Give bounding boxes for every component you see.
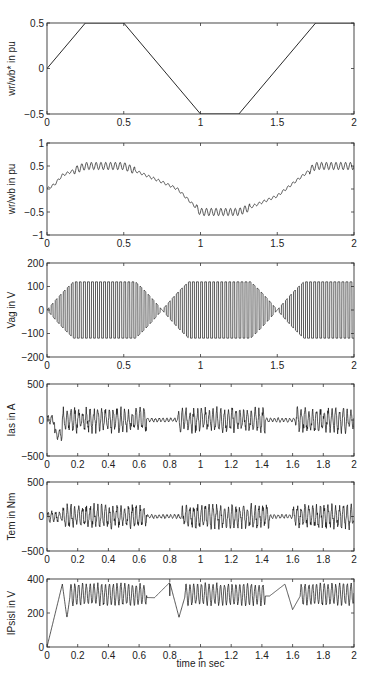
y-tick-label: 0	[38, 63, 44, 74]
y-axis-label: Vag in V	[6, 291, 17, 328]
x-tick-label: 0	[44, 117, 50, 128]
x-tick-label: 0.6	[132, 554, 146, 565]
y-axis-label: Ias in A	[6, 403, 17, 436]
x-tick-label: 1.5	[270, 360, 284, 371]
plot-frame	[47, 23, 354, 114]
x-tick-label: 1.4	[255, 459, 269, 470]
y-tick-label: 200	[27, 258, 44, 269]
y-tick-label: 0	[38, 305, 44, 316]
x-tick-label: 1	[198, 554, 204, 565]
x-tick-label: 0.4	[101, 459, 115, 470]
y-tick-label: 0	[38, 511, 44, 522]
subplot-5: 00.20.40.60.811.21.41.61.82−5000500Tem i…	[6, 477, 357, 566]
subplot-1: 00.511.52−0.500.5wr/wb* in pu	[6, 18, 357, 129]
x-tick-label: 0.5	[117, 360, 131, 371]
x-tick-label: 2	[351, 459, 357, 470]
x-tick-label: 0.2	[71, 554, 85, 565]
data-line	[47, 162, 354, 215]
x-tick-label: 0	[44, 554, 50, 565]
x-tick-label: 0	[44, 459, 50, 470]
x-tick-label: 1.2	[224, 554, 238, 565]
y-axis-label: wr/wb* in pu	[6, 41, 17, 96]
y-tick-label: 100	[27, 281, 44, 292]
y-tick-label: −100	[21, 328, 44, 339]
x-tick-label: 0.5	[117, 117, 131, 128]
y-tick-label: −0.5	[24, 109, 44, 120]
y-axis-label: Tem in Nm	[6, 493, 17, 541]
subplot-4: 00.20.40.60.811.21.41.61.82−5000500Ias i…	[6, 379, 357, 471]
x-tick-label: 0.4	[101, 554, 115, 565]
subplot-6: 00.20.40.60.811.21.41.61.820200400IPsisI…	[6, 574, 357, 662]
y-tick-label: −0.5	[24, 207, 44, 218]
y-tick-label: 200	[27, 608, 44, 619]
x-tick-label: 1	[198, 238, 204, 249]
x-tick-label: 1.6	[286, 459, 300, 470]
x-tick-label: 1.4	[255, 554, 269, 565]
y-tick-label: 0	[38, 642, 44, 653]
x-tick-label: 0.2	[71, 459, 85, 470]
x-tick-label: 1	[198, 360, 204, 371]
x-tick-label: 1	[198, 459, 204, 470]
x-tick-label: 1.5	[270, 238, 284, 249]
x-tick-label: 0.8	[163, 554, 177, 565]
y-tick-label: 1	[38, 138, 44, 149]
y-tick-label: −200	[21, 352, 44, 363]
x-axis-label: time in sec	[0, 658, 371, 669]
x-tick-label: 1.5	[270, 117, 284, 128]
y-tick-label: −500	[21, 546, 44, 557]
x-tick-label: 1.8	[316, 554, 330, 565]
y-tick-label: −500	[21, 451, 44, 462]
y-tick-label: 0.5	[30, 161, 44, 172]
y-axis-label: wr/wb in pu	[6, 164, 17, 216]
subplot-3: 00.511.52−200−1000100200Vag in V	[6, 258, 357, 372]
y-tick-label: 0	[38, 415, 44, 426]
x-tick-label: 0.5	[117, 238, 131, 249]
y-tick-label: 400	[27, 574, 44, 585]
x-tick-label: 1	[198, 117, 204, 128]
data-line	[47, 282, 354, 338]
data-line	[47, 583, 354, 647]
x-tick-label: 0.6	[132, 459, 146, 470]
y-tick-label: 500	[27, 379, 44, 390]
x-tick-label: 2	[351, 360, 357, 371]
y-tick-label: 500	[27, 477, 44, 488]
data-line	[47, 503, 354, 530]
y-axis-label: IPsisI in V	[6, 590, 17, 635]
data-line	[47, 23, 354, 114]
x-tick-label: 0	[44, 238, 50, 249]
data-line	[47, 407, 354, 441]
x-tick-label: 0.8	[163, 459, 177, 470]
x-tick-label: 1.6	[286, 554, 300, 565]
figure: 00.511.52−0.500.5wr/wb* in pu00.511.52−1…	[0, 0, 371, 678]
y-tick-label: −1	[33, 230, 45, 241]
x-tick-label: 0	[44, 360, 50, 371]
x-tick-label: 2	[351, 117, 357, 128]
subplot-2: 00.511.52−1−0.500.51wr/wb in pu	[6, 138, 357, 250]
x-tick-label: 2	[351, 238, 357, 249]
plot-frame	[47, 143, 354, 235]
y-tick-label: 0.5	[30, 18, 44, 29]
y-tick-label: 0	[38, 184, 44, 195]
x-tick-label: 1.2	[224, 459, 238, 470]
x-tick-label: 2	[351, 554, 357, 565]
x-tick-label: 1.8	[316, 459, 330, 470]
